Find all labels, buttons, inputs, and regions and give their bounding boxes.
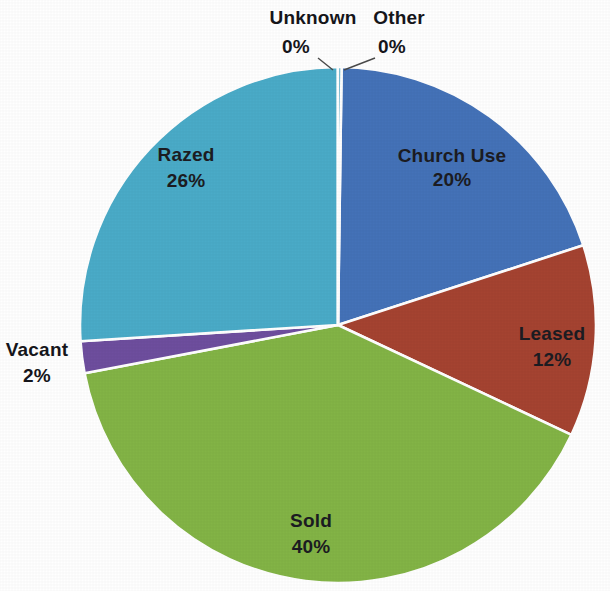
slice-label-razed: Razed bbox=[158, 144, 215, 165]
slice-value-leased: 12% bbox=[533, 349, 572, 370]
slice-label-other: Other bbox=[373, 7, 425, 28]
slice-value-unknown: 0% bbox=[282, 36, 310, 57]
slice-label-unknown: Unknown bbox=[270, 7, 357, 28]
slice-value-sold: 40% bbox=[292, 536, 331, 557]
slice-label-church-use: Church Use bbox=[398, 145, 507, 166]
pie-chart-canvas: Church Use20%Leased12%Sold40%Vacant2%Raz… bbox=[0, 0, 610, 591]
slice-value-other: 0% bbox=[378, 36, 406, 57]
pie-slice-razed[interactable] bbox=[80, 67, 338, 341]
slice-value-church-use: 20% bbox=[433, 169, 472, 190]
pie-chart: Church Use20%Leased12%Sold40%Vacant2%Raz… bbox=[0, 0, 610, 591]
slice-value-vacant: 2% bbox=[23, 365, 51, 386]
slice-value-razed: 26% bbox=[167, 170, 206, 191]
slice-label-leased: Leased bbox=[519, 323, 586, 344]
slice-label-sold: Sold bbox=[290, 510, 332, 531]
slice-label-vacant: Vacant bbox=[6, 339, 69, 360]
